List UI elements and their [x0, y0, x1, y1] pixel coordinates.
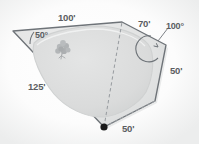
- angle-label-west-vertex: 50°: [35, 31, 48, 40]
- dimension-label-bottom-side: 50': [122, 124, 134, 134]
- dimension-label-top-side: 100': [58, 13, 75, 23]
- survey-diagram-figure: 100' 70' 50' 50' 125' 50° 100°: [0, 0, 199, 144]
- south-vertex-dot: [100, 123, 107, 130]
- angle-label-east-vertex: 100°: [166, 22, 184, 31]
- dimension-label-right-side: 50': [170, 66, 182, 76]
- dimension-label-left-side: 125': [28, 82, 45, 92]
- dimension-label-upper-right-side: 70': [138, 19, 150, 29]
